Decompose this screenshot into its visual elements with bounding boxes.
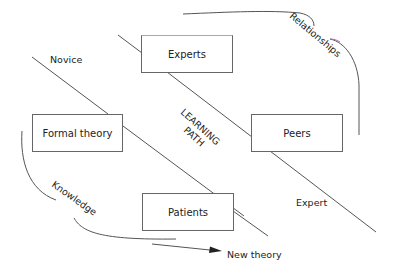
new-theory-label: New theory (227, 249, 282, 260)
novice-diagonal-line-3 (233, 211, 268, 236)
novice-label: Novice (50, 54, 82, 65)
experts-label: Experts (168, 49, 206, 60)
formal-theory-label: Formal theory (43, 128, 113, 139)
novice-diagonal-line (32, 57, 108, 114)
knowledge-label: Knowledge (50, 179, 99, 218)
arrowhead-icon (209, 247, 222, 254)
new-theory-arrow-line (152, 244, 210, 250)
peers-label: Peers (283, 128, 310, 139)
peers-box: Peers (251, 114, 343, 152)
formal-theory-box: Formal theory (32, 114, 123, 152)
relationships-label: Relationships (288, 10, 344, 59)
expert-diagonal-line-3 (270, 151, 376, 232)
expert-diagonal-line (118, 35, 142, 53)
patients-label: Patients (168, 207, 208, 218)
expert-label: Expert (296, 197, 327, 208)
experts-box: Experts (141, 35, 233, 73)
patients-box: Patients (142, 193, 234, 231)
